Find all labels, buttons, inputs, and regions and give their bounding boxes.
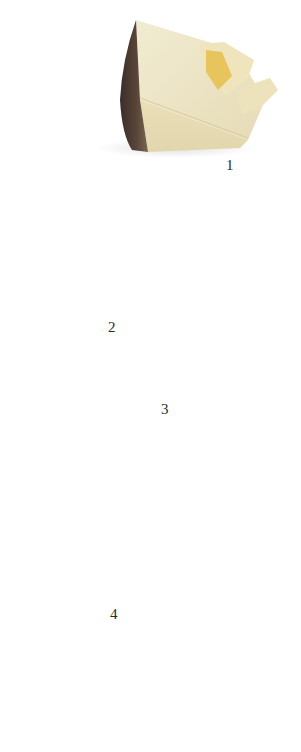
cheese-2-number: 2 — [108, 320, 116, 335]
cheese-1-number: 1 — [226, 158, 234, 173]
cheese-4-number: 4 — [110, 607, 118, 622]
cheese-3-number: 3 — [161, 402, 169, 417]
cheese-1 — [95, 20, 278, 158]
cheese-figure: 1 2 3 4 — [0, 0, 301, 752]
